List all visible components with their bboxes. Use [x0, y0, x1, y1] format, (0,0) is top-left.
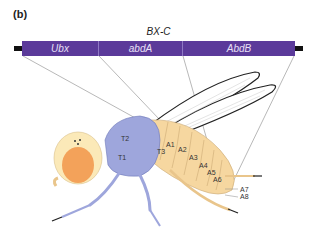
label-a2: A2	[178, 146, 187, 153]
label-a6: A6	[213, 176, 222, 183]
label-a3: A3	[189, 154, 198, 161]
eye	[62, 147, 94, 183]
label-a8: A8	[240, 193, 249, 200]
label-a4: A4	[199, 162, 208, 169]
label-t2: T2	[121, 135, 129, 142]
label-a1: A1	[166, 141, 175, 148]
label-t1: T1	[118, 154, 126, 161]
label-t3: T3	[157, 148, 165, 155]
fly-diagram: T2 T1 T3 A1 A2 A3 A4 A5 A6 A7 A8	[0, 0, 317, 232]
label-a5: A5	[207, 169, 216, 176]
label-a7: A7	[240, 186, 249, 193]
thorax	[105, 116, 160, 176]
